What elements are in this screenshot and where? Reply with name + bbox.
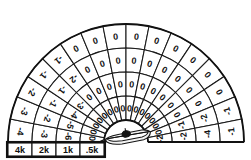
legend-label-1k: 1k	[63, 145, 74, 155]
grid-cells-layer: -4-3-2-1-1000000000-1-1-3-2-1-1-20000000…	[8, 24, 244, 143]
legend-label-4k: 4k	[15, 145, 26, 155]
cell-value-.5k-s1: 0	[87, 136, 97, 142]
cell-value-1k-s16: -2	[178, 132, 189, 141]
cell-value-2k-s16: -4	[202, 129, 213, 138]
cell-value-2k-s8: 0	[115, 55, 121, 65]
cell-value-4k-s1: -4	[15, 127, 26, 136]
legend-label-p5k: .5k	[86, 145, 100, 155]
legend-label-2k: 2k	[39, 145, 50, 155]
cell-value-1k-s1: -6	[63, 132, 74, 141]
cell-value-4k-s9: 0	[133, 31, 139, 41]
cell-value-.5k-s9: 0	[126, 103, 132, 113]
cell-value-2k-s1: -3	[39, 129, 50, 138]
cell-value-4k-s8: 0	[113, 31, 119, 41]
cell-value-4k-s16: -1	[226, 127, 237, 136]
sonar-polar-grid: -4-3-2-1-1000000000-1-1-3-2-1-1-20000000…	[0, 0, 251, 160]
sonar-display: -4-3-2-1-1000000000-1-1-3-2-1-1-20000000…	[0, 0, 251, 160]
range-scale-legend: 4k2k1k.5k	[7, 142, 105, 157]
cell-value-2k-s9: 0	[131, 55, 137, 65]
cell-value-1k-s8: 0	[117, 79, 123, 89]
cell-value-1k-s9: 0	[129, 79, 135, 89]
cell-value-.5k-s8: 0	[120, 103, 126, 113]
